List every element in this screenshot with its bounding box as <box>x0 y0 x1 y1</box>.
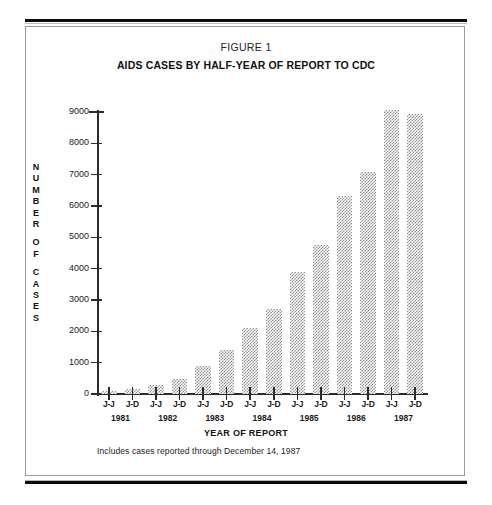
y-axis-title-letter: B <box>33 196 40 207</box>
y-axis-title-letter: C <box>33 267 40 278</box>
bar <box>242 328 258 394</box>
x-half-year-label: J-D <box>167 399 193 409</box>
y-tick-label: 9000 <box>49 106 89 116</box>
bottom-rule-shadow <box>25 480 467 481</box>
bar <box>407 114 423 394</box>
x-half-year-label: J-J <box>143 399 169 409</box>
y-tick-label: 4000 <box>49 263 89 273</box>
figure-page: FIGURE 1 AIDS CASES BY HALF-YEAR OF REPO… <box>0 0 492 505</box>
x-year-label: 1984 <box>242 413 282 423</box>
x-axis-title: YEAR OF REPORT <box>0 428 492 438</box>
y-axis-title-letter: F <box>33 249 39 260</box>
y-axis-title-letter: M <box>32 185 40 196</box>
x-half-year-label: J-J <box>332 399 358 409</box>
top-rule <box>25 19 467 22</box>
y-tick-label: 7000 <box>49 169 89 179</box>
y-tick-label: 5000 <box>49 231 89 241</box>
x-half-year-label: J-D <box>261 399 287 409</box>
y-axis-title: NUMBEROFCASES <box>29 162 43 324</box>
y-axis-title-letter: E <box>33 301 39 312</box>
x-half-year-label: J-D <box>214 399 240 409</box>
y-axis-title-letter: A <box>33 279 40 290</box>
figure-label: FIGURE 1 <box>0 41 492 53</box>
bar <box>290 272 306 394</box>
y-axis-title-letter: N <box>33 162 40 173</box>
y-axis-title-letter: S <box>33 313 39 324</box>
x-year-label: 1987 <box>383 413 423 423</box>
top-rule-shadow <box>25 23 467 24</box>
x-year-label: 1985 <box>289 413 329 423</box>
bar <box>266 309 282 394</box>
x-half-year-label: J-J <box>237 399 263 409</box>
x-half-year-label: J-D <box>402 399 428 409</box>
y-tick-label: 1000 <box>49 357 89 367</box>
y-tick-label: 6000 <box>49 200 89 210</box>
x-half-year-label: J-J <box>284 399 310 409</box>
chart-title: AIDS CASES BY HALF-YEAR OF REPORT TO CDC <box>0 59 492 71</box>
y-axis-title-letter: O <box>32 237 39 248</box>
plot-area <box>97 112 427 394</box>
x-half-year-label: J-J <box>96 399 122 409</box>
y-tick-label: 8000 <box>49 137 89 147</box>
bar <box>360 172 376 394</box>
x-half-year-label: J-D <box>355 399 381 409</box>
x-half-year-label: J-J <box>190 399 216 409</box>
bar <box>337 196 353 394</box>
x-half-year-label: J-D <box>119 399 145 409</box>
y-tick-label: 2000 <box>49 325 89 335</box>
footnote: Includes cases reported through December… <box>97 446 300 456</box>
y-axis-title-letter: S <box>33 290 39 301</box>
y-tick-label: 0 <box>49 388 89 398</box>
y-axis-title-letter: R <box>33 219 40 230</box>
bottom-rule <box>25 481 467 484</box>
bar <box>313 245 329 394</box>
x-half-year-label: J-D <box>308 399 334 409</box>
bar <box>384 110 400 394</box>
y-tick-label: 3000 <box>49 294 89 304</box>
x-year-label: 1981 <box>101 413 141 423</box>
x-year-label: 1986 <box>336 413 376 423</box>
y-axis-title-letter: U <box>33 173 40 184</box>
y-axis-title-letter: E <box>33 208 39 219</box>
x-year-label: 1983 <box>195 413 235 423</box>
x-year-label: 1982 <box>148 413 188 423</box>
x-half-year-label: J-J <box>379 399 405 409</box>
